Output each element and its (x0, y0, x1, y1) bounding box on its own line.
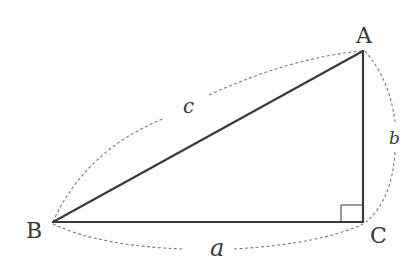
arc-side-b-lower (366, 152, 395, 222)
vertex-label-c: C (370, 223, 387, 248)
arc-side-a-right (234, 224, 363, 249)
right-triangle-diagram: A B C a b c (0, 0, 411, 267)
vertex-label-a: A (355, 23, 373, 48)
side-label-a: a (210, 234, 224, 262)
arc-side-c-upper (209, 51, 361, 95)
diagram-svg: A B C a b c (0, 0, 411, 267)
right-angle-marker (341, 205, 363, 222)
side-label-b: b (389, 128, 400, 148)
arc-side-a-left (53, 224, 183, 249)
edge-ba (53, 51, 363, 222)
arc-side-b-upper (365, 51, 395, 122)
side-label-c: c (183, 94, 194, 118)
vertex-label-b: B (26, 218, 42, 243)
